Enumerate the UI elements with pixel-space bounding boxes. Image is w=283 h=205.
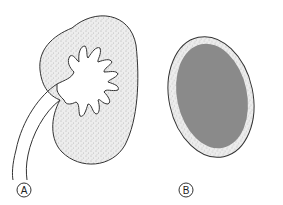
panel-a-kidney	[12, 16, 137, 180]
label-b-text: B	[183, 185, 190, 196]
panel-b-kidney	[157, 29, 265, 166]
label-a: A	[17, 183, 31, 197]
label-a-text: A	[21, 185, 28, 196]
kidney-diagram: A B	[0, 0, 283, 205]
label-b: B	[179, 183, 193, 197]
